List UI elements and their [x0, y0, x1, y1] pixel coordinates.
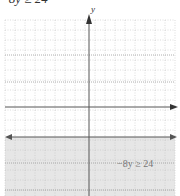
inequality-annotation: −8y ≥ 24 — [117, 158, 153, 169]
y-axis-arrow-icon — [86, 14, 92, 24]
coordinate-plane: y −8y ≥ 24 — [0, 0, 180, 196]
x-axis-arrow-icon — [170, 104, 178, 110]
y-axis-label: y — [90, 4, 95, 14]
